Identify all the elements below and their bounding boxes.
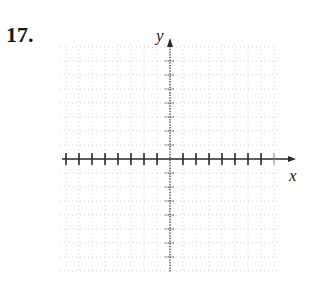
y-axis-label: y	[156, 26, 164, 46]
x-axis-arrow-icon	[288, 156, 296, 162]
x-axis-label: x	[289, 166, 297, 186]
y-axis-arrow-icon	[167, 38, 173, 47]
